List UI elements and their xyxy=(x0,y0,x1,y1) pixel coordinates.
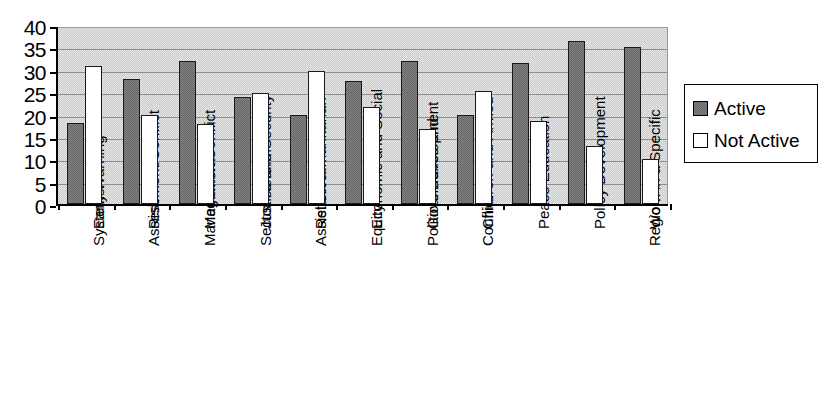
bar-active xyxy=(345,81,362,204)
x-axis-label: Justice and SecuritySector Reform xyxy=(257,212,274,246)
x-axis-label: Children and ArmedConflict xyxy=(479,212,496,246)
x-axis-label-line: Early Warning xyxy=(90,212,107,229)
y-tick-label: 5 xyxy=(35,173,46,194)
x-axis-label: Relief/HumanitarianAssistance xyxy=(312,212,329,246)
y-tick-label: 25 xyxy=(24,84,46,105)
legend-swatch-notactive xyxy=(693,133,708,148)
x-axis-label-line: Assessment/Conflict xyxy=(145,229,162,246)
x-tick-mark xyxy=(392,204,394,210)
bar-active xyxy=(67,123,84,204)
legend-label: Not Active xyxy=(714,131,800,150)
legend-item: Active xyxy=(693,92,817,124)
x-tick-mark xyxy=(225,204,227,210)
x-axis-label-line: Region xyxy=(646,229,663,246)
x-axis-label: Governance andPolitical Development xyxy=(424,212,441,246)
x-axis-label: Mediation/ConflictManagement xyxy=(201,212,218,246)
y-tick-label: 30 xyxy=(24,61,46,82)
bar-not-active xyxy=(252,93,269,204)
bar-not-active xyxy=(642,159,659,204)
x-axis-label: Economic and SocialEquity xyxy=(368,212,385,246)
bar-active xyxy=(457,115,474,205)
x-axis-label: Early WarningSystems xyxy=(90,212,107,246)
x-axis-label-line: Conflict xyxy=(479,229,496,246)
x-axis-label-line: Sector Reform xyxy=(257,229,274,246)
x-tick-mark xyxy=(169,204,171,210)
x-axis-label-line: Systems xyxy=(90,229,107,246)
x-axis-label: Peace Education xyxy=(535,212,552,229)
bar-not-active xyxy=(85,66,102,204)
x-axis-label-line: Relief/Humanitarian xyxy=(312,212,329,229)
legend-item: Not Active xyxy=(693,124,817,156)
y-tick-label: 0 xyxy=(35,196,46,217)
bar-active xyxy=(234,97,251,204)
y-tick-mark xyxy=(50,206,56,208)
x-axis-label-line: Work in a Specific xyxy=(646,212,663,229)
chart-legend: ActiveNot Active xyxy=(684,84,818,163)
y-tick-label: 15 xyxy=(24,128,46,149)
x-axis-label-line: Peace Education xyxy=(535,212,552,229)
x-tick-mark xyxy=(58,204,60,210)
bars-layer xyxy=(58,27,668,204)
x-axis-label-line: Assistance xyxy=(312,229,329,246)
bar-chart: 0510152025303540 Early WarningSystemsRis… xyxy=(0,0,838,412)
legend-label: Active xyxy=(714,99,766,118)
bar-not-active xyxy=(530,121,547,204)
bar-active xyxy=(123,79,140,204)
x-axis-label: Work in a SpecificRegion xyxy=(646,212,663,246)
bar-not-active xyxy=(586,146,603,204)
x-axis-label: Policy Development xyxy=(591,212,608,229)
x-axis-label-line: Mediation/Conflict xyxy=(201,212,218,229)
bar-not-active xyxy=(141,115,158,204)
bar-not-active xyxy=(308,71,325,204)
x-axis-label-line: Policy Development xyxy=(591,212,608,229)
x-tick-mark xyxy=(447,204,449,210)
bar-active xyxy=(401,61,418,204)
x-tick-mark xyxy=(281,204,283,210)
x-axis-label-line: Economic and Social xyxy=(368,212,385,229)
bar-not-active xyxy=(363,107,380,204)
bar-not-active xyxy=(475,91,492,204)
y-tick-label: 20 xyxy=(24,106,46,127)
y-tick-label: 35 xyxy=(24,39,46,60)
bar-active xyxy=(624,47,641,204)
x-tick-mark xyxy=(670,204,672,210)
bar-active xyxy=(179,61,196,204)
x-axis-label-line: Justice and Security xyxy=(257,212,274,229)
bar-active xyxy=(568,41,585,204)
bar-active xyxy=(290,115,307,205)
x-tick-mark xyxy=(559,204,561,210)
bar-not-active xyxy=(197,124,214,204)
x-tick-mark xyxy=(503,204,505,210)
y-axis: 0510152025303540 xyxy=(0,18,50,214)
x-axis-label: RiskAssessment/Conflict xyxy=(145,212,162,246)
bar-active xyxy=(512,63,529,204)
x-tick-mark xyxy=(114,204,116,210)
x-axis-label-line: Risk xyxy=(145,212,162,229)
y-tick-label: 40 xyxy=(24,17,46,38)
x-axis-label-line: Equity xyxy=(368,229,385,246)
legend-swatch-active xyxy=(693,101,708,116)
x-tick-mark xyxy=(614,204,616,210)
x-axis-label-line: Political Development xyxy=(424,229,441,246)
x-axis-label-line: Children and Armed xyxy=(479,212,496,229)
plot-area xyxy=(56,27,668,206)
x-tick-mark xyxy=(336,204,338,210)
y-tick-label: 10 xyxy=(24,151,46,172)
x-axis-label-line: Governance and xyxy=(424,212,441,229)
x-axis-label-line: Management xyxy=(201,229,218,246)
bar-not-active xyxy=(419,129,436,204)
x-axis-labels: Early WarningSystemsRiskAssessment/Confl… xyxy=(56,212,668,402)
